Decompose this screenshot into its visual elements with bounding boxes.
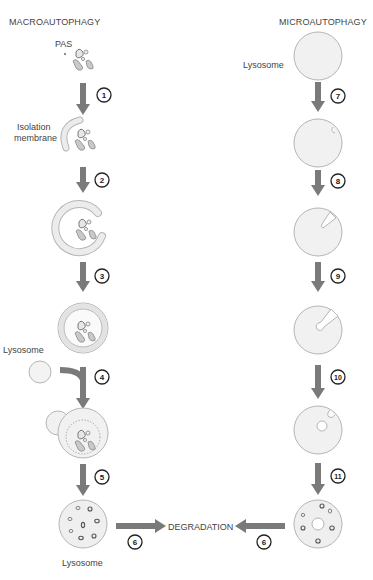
svg-text:10: 10 [334, 374, 342, 381]
lysosome-invagination-1 [294, 119, 342, 167]
isolation-label-2: membrane [14, 133, 57, 143]
pas-cargo [73, 49, 93, 70]
pas-label: PAS [55, 39, 72, 49]
lysosome-pinching [294, 406, 342, 454]
step-2-badge: 2 [95, 173, 109, 187]
lysosome-invagination-2 [294, 208, 342, 256]
svg-text:6: 6 [262, 538, 267, 547]
step-6-left-badge: 6 [128, 535, 142, 549]
cargo-1 [75, 129, 95, 150]
svg-text:6: 6 [133, 538, 138, 547]
svg-text:4: 4 [100, 373, 105, 382]
lysosome-macro [29, 361, 51, 383]
lysosome-invagination-3 [294, 306, 342, 354]
cargo-2 [76, 219, 96, 240]
lysosome-bottom-label: Lysosome [62, 558, 103, 568]
svg-text:8: 8 [336, 177, 341, 186]
arrow-step-8 [311, 170, 325, 196]
svg-text:2: 2 [100, 176, 105, 185]
step-8-badge: 8 [331, 174, 345, 188]
arrow-step-1 [76, 83, 90, 115]
step-9-badge: 9 [331, 269, 345, 283]
autophagy-diagram: MACROAUTOPHAGY MICROAUTOPHAGY PAS 1 Isol… [0, 0, 373, 580]
svg-text:9: 9 [336, 272, 341, 281]
step-6-right-badge: 6 [257, 535, 271, 549]
svg-text:5: 5 [100, 473, 105, 482]
lysosome-degrading-micro [294, 500, 342, 548]
svg-text:11: 11 [334, 473, 342, 480]
step-10-badge: 10 [331, 370, 345, 384]
step-11-badge: 11 [331, 469, 345, 483]
step-5-badge: 5 [95, 470, 109, 484]
svg-text:3: 3 [100, 272, 105, 281]
degradation-label: DEGRADATION [168, 522, 233, 532]
lysosome-micro-label: Lysosome [243, 60, 284, 70]
lysosome-micro [294, 32, 342, 80]
step-3-badge: 3 [95, 269, 109, 283]
svg-text:7: 7 [336, 92, 341, 101]
svg-text:1: 1 [102, 91, 107, 100]
pas-dot [64, 53, 66, 55]
arrow-step-4 [60, 367, 90, 409]
lysosome-degrading-macro [59, 500, 107, 548]
microautophagy-title: MICROAUTOPHAGY [279, 17, 367, 27]
lysosome-macro-label: Lysosome [3, 345, 44, 355]
macroautophagy-title: MACROAUTOPHAGY [9, 17, 100, 27]
step-4-badge: 4 [95, 370, 109, 384]
isolation-label-1: Isolation [17, 122, 51, 132]
arrow-step-6-right [235, 519, 285, 533]
arrow-step-5 [76, 464, 90, 496]
arrow-step-6-left [116, 519, 166, 533]
arrow-step-10 [311, 365, 325, 399]
arrow-step-7 [311, 82, 325, 112]
step-1-badge: 1 [97, 88, 111, 102]
arrow-step-11 [311, 463, 325, 495]
arrow-step-2 [76, 167, 90, 193]
arrow-step-3 [76, 262, 90, 292]
arrow-step-9 [311, 262, 325, 292]
step-7-badge: 7 [331, 89, 345, 103]
